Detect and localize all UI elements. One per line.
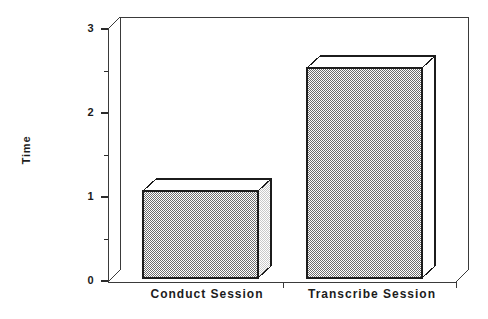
x-tick-label-conduct-session: Conduct Session [142, 288, 272, 301]
y-axis-title-text: Time [20, 136, 32, 165]
y-tick-label-1: 1 [78, 191, 94, 202]
bar-transcribe-session[interactable] [307, 56, 435, 278]
y-tick-label-0: 0 [78, 275, 94, 286]
y-axis-title: Time [0, 119, 52, 181]
chart-canvas [0, 0, 488, 319]
x-tick-label-transcribe-session: Transcribe Session [301, 288, 443, 301]
y-tick-label-3: 3 [78, 23, 94, 34]
bar-conduct-session[interactable] [143, 179, 271, 278]
y-tick-label-2: 2 [78, 107, 94, 118]
bar-chart-figure: 3 2 1 0 Time Conduct Session Transcribe … [0, 0, 488, 319]
y-axis-ticks [101, 29, 108, 281]
y-axis-plane [108, 17, 120, 282]
